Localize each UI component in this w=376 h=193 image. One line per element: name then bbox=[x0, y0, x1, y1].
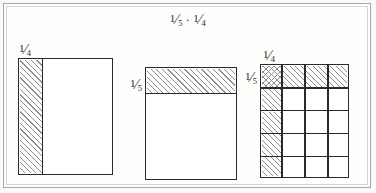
shaded-cell-r1c2 bbox=[283, 66, 304, 87]
figure-title: 1⁄5·1⁄4 bbox=[0, 12, 376, 28]
title-fraction-one-quarter: 1⁄4 bbox=[193, 12, 206, 28]
numerator: 1 bbox=[193, 12, 199, 24]
column-divider-1 bbox=[42, 58, 44, 175]
shaded-cell-r3c1 bbox=[262, 112, 282, 133]
denominator: 4 bbox=[271, 54, 275, 64]
shaded-quarter-column bbox=[20, 60, 42, 174]
label-one-quarter-top: 1⁄4 bbox=[263, 49, 275, 63]
label-one-fifth-left: 1⁄5 bbox=[130, 78, 142, 92]
numerator: 1 bbox=[130, 77, 136, 89]
shaded-cell-r2c1 bbox=[262, 89, 282, 110]
label-one-quarter-top: 1⁄4 bbox=[19, 43, 31, 57]
panel-quarter-rectangle: 1⁄4 bbox=[18, 58, 114, 176]
numerator: 1 bbox=[170, 12, 176, 24]
shaded-fifth-row bbox=[147, 69, 236, 93]
figure-canvas: 1⁄5·1⁄4 1⁄4 1⁄5 1⁄4 1⁄5 bbox=[0, 0, 376, 193]
shaded-cell-r5c1 bbox=[262, 157, 282, 176]
shaded-cell-r4c1 bbox=[262, 134, 282, 155]
numerator: 1 bbox=[19, 42, 25, 54]
grid-row-divider-3 bbox=[260, 133, 349, 135]
label-one-fifth-left: 1⁄5 bbox=[245, 71, 257, 85]
grid-column-divider-1 bbox=[281, 64, 283, 178]
denominator: 4 bbox=[27, 48, 31, 58]
title-fraction-one-fifth: 1⁄5 bbox=[170, 12, 183, 28]
denominator: 4 bbox=[202, 18, 207, 28]
shaded-cell-r1c3 bbox=[306, 66, 327, 87]
numerator: 1 bbox=[245, 70, 251, 82]
grid-row-divider-1 bbox=[260, 87, 349, 89]
panel-fifth-rectangle: 1⁄5 bbox=[145, 67, 238, 180]
grid-row-divider-2 bbox=[260, 110, 349, 112]
denominator: 5 bbox=[138, 83, 142, 93]
denominator: 5 bbox=[178, 18, 183, 28]
denominator: 5 bbox=[253, 76, 257, 86]
numerator: 1 bbox=[263, 48, 269, 60]
grid-column-divider-2 bbox=[304, 64, 306, 178]
row-divider-1 bbox=[145, 93, 237, 95]
multiplication-dot: · bbox=[183, 13, 193, 27]
cross-hatched-product-cell bbox=[262, 66, 282, 87]
grid-column-divider-3 bbox=[327, 64, 329, 178]
grid-row-divider-4 bbox=[260, 156, 349, 158]
panel-product-grid: 1⁄4 1⁄5 bbox=[260, 64, 350, 178]
shaded-cell-r1c4 bbox=[329, 66, 348, 87]
